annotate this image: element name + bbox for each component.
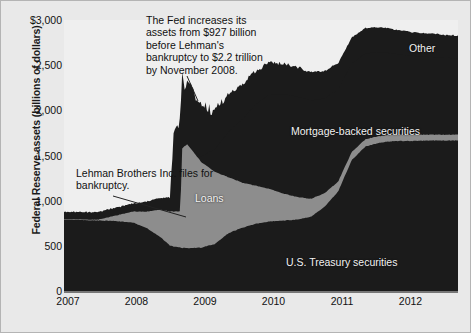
x-tick-2011: 2011 <box>331 295 354 307</box>
y-axis-tick-labels: $3,000 2,500 2,000 1,500 1,000 500 0 <box>12 0 62 333</box>
y-tick-2000: 2,000 <box>16 104 62 116</box>
x-tick-2012: 2012 <box>399 295 422 307</box>
x-axis-line <box>64 291 458 293</box>
series-label-other: Other <box>409 42 435 54</box>
y-tick-2500: 2,500 <box>16 59 62 71</box>
x-tick-2008: 2008 <box>125 295 148 307</box>
y-tick-500: 500 <box>16 240 62 252</box>
y-tick-1500: 1,500 <box>16 150 62 162</box>
x-tick-2010: 2010 <box>262 295 285 307</box>
y-tick-1000: 1,000 <box>16 195 62 207</box>
x-tick-2007: 2007 <box>56 295 79 307</box>
y-tick-0: 0 <box>16 285 62 297</box>
series-label-loans: Loans <box>195 192 224 204</box>
y-tick-3000: $3,000 <box>16 14 62 26</box>
fed-increase-annotation: The Fed increases its assets from $927 b… <box>146 14 274 76</box>
lehman-bankruptcy-annotation: Lehman Brothers Inc. files for bankruptc… <box>76 167 222 192</box>
series-label-us-treasury-securities: U.S. Treasury securities <box>286 256 397 268</box>
x-tick-2009: 2009 <box>193 295 216 307</box>
series-label-mortgage-backed-securities: Mortgage-backed securities <box>291 125 420 137</box>
chart-figure: Federal Reserve assets (billions of doll… <box>0 0 471 333</box>
